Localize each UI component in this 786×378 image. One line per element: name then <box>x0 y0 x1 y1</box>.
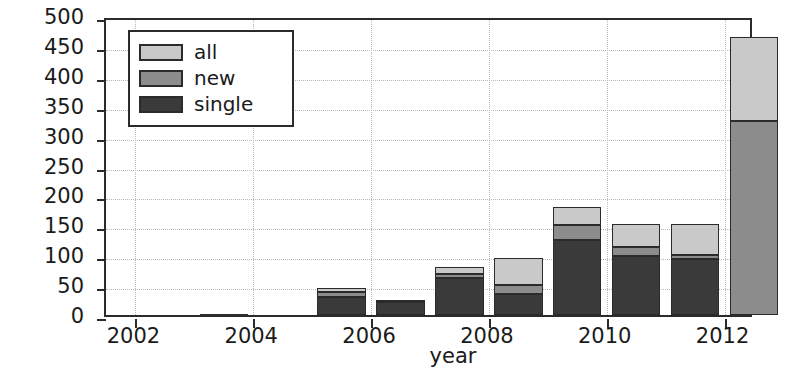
y-axis-tick-label: 400 <box>28 67 84 88</box>
y-axis-tick-label: 50 <box>28 276 84 297</box>
bar-segment-new <box>612 247 660 256</box>
legend-swatch-new <box>139 70 183 87</box>
bar-segment-new <box>553 225 601 240</box>
bar-segment-new <box>435 274 483 278</box>
legend-item: all <box>139 39 283 65</box>
legend-item: single <box>139 91 283 117</box>
x-gridline <box>607 20 608 315</box>
bar-segment-all <box>671 224 719 256</box>
x-axis-tick-label: 2008 <box>447 326 527 347</box>
y-axis-tick-label: 350 <box>28 97 84 118</box>
y-axis-tick <box>97 50 106 52</box>
legend-swatch-single <box>139 96 183 113</box>
bar-segment-single <box>317 297 365 315</box>
y-axis-tick <box>97 170 106 172</box>
y-axis-title: number <box>0 68 2 150</box>
y-axis-tick <box>97 319 106 321</box>
bar-group <box>376 16 424 315</box>
y-axis-tick <box>97 259 106 261</box>
bar-segment-new <box>671 255 719 259</box>
bar-segment-single <box>553 240 601 315</box>
x-gridline <box>371 20 372 315</box>
x-axis-tick-label: 2004 <box>211 326 291 347</box>
y-axis-tick-label: 100 <box>28 246 84 267</box>
x-axis-tick-label: 2010 <box>565 326 645 347</box>
chart-legend: all new single <box>128 30 294 127</box>
y-axis-tick <box>97 229 106 231</box>
bar-segment-single <box>376 302 424 315</box>
y-axis-tick-label: 500 <box>28 7 84 28</box>
y-axis-tick-label: 250 <box>28 157 84 178</box>
legend-label-new: new <box>194 68 235 88</box>
bar-segment-all <box>553 207 601 225</box>
bar-group <box>553 16 601 315</box>
y-axis-tick <box>97 20 106 22</box>
y-axis-tick <box>97 199 106 201</box>
bar-segment-single <box>435 278 483 315</box>
chart-figure: number year 0501001502002503003504004505… <box>0 0 786 378</box>
x-gridline <box>489 20 490 315</box>
bar-segment-all <box>612 224 660 248</box>
bar-segment-new <box>494 285 542 294</box>
bar-group <box>671 16 719 315</box>
legend-swatch-all <box>139 44 183 61</box>
bar-segment-all <box>730 37 778 121</box>
bar-segment-all <box>494 258 542 285</box>
bar-group <box>612 16 660 315</box>
legend-item: new <box>139 65 283 91</box>
y-axis-tick-label: 450 <box>28 37 84 58</box>
x-axis-title: year <box>60 344 786 368</box>
bar-segment-single <box>200 314 248 316</box>
bar-segment-single <box>671 259 719 315</box>
y-axis-tick <box>97 140 106 142</box>
bar-segment-all <box>317 288 365 292</box>
y-axis-tick-label: 300 <box>28 127 84 148</box>
x-axis-tick-label: 2002 <box>93 326 173 347</box>
bar-segment-single <box>612 256 660 315</box>
x-axis-tick-label: 2006 <box>329 326 409 347</box>
y-axis-tick <box>97 80 106 82</box>
legend-label-all: all <box>194 42 217 62</box>
x-gridline <box>725 20 726 315</box>
bar-group <box>730 16 778 315</box>
bar-segment-all <box>376 300 424 302</box>
y-axis-tick <box>97 289 106 291</box>
bar-group <box>435 16 483 315</box>
bar-segment-single <box>494 294 542 315</box>
bar-group <box>317 16 365 315</box>
x-axis-tick-label: 2012 <box>683 326 763 347</box>
legend-label-single: single <box>194 94 253 114</box>
y-axis-tick-label: 0 <box>28 306 84 327</box>
y-axis-tick-label: 150 <box>28 216 84 237</box>
bar-segment-new <box>730 121 778 315</box>
bar-segment-all <box>435 267 483 274</box>
bar-group <box>494 16 542 315</box>
y-axis-tick <box>97 110 106 112</box>
bar-segment-new <box>317 292 365 297</box>
y-axis-tick-label: 200 <box>28 186 84 207</box>
